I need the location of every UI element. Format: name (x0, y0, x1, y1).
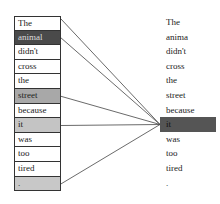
right-token: anima (164, 30, 216, 45)
right-token: . (164, 176, 216, 191)
left-token: didn't (14, 45, 61, 60)
left-token: tired (14, 162, 61, 177)
right-token: the (164, 73, 216, 88)
right-token: tired (164, 161, 216, 176)
attention-line (61, 19, 160, 125)
right-token: because (164, 103, 216, 118)
left-token: it (14, 118, 61, 133)
attention-line (61, 96, 160, 124)
left-token: animal (14, 31, 61, 46)
right-token: didn't (164, 44, 216, 59)
left-token: the (14, 74, 61, 89)
right-token: cross (164, 59, 216, 74)
left-token: street (14, 89, 61, 104)
left-token: was (14, 133, 61, 148)
attention-line (61, 125, 160, 184)
source-token-column: The animal didn't cross the street becau… (14, 16, 61, 191)
right-token: was (164, 132, 216, 147)
target-token-column: The anima didn't cross the street becaus… (164, 15, 216, 190)
right-token: street (164, 88, 216, 103)
left-token: cross (14, 60, 61, 75)
right-token: The (164, 15, 216, 30)
attention-line (61, 125, 160, 126)
left-token: The (14, 16, 61, 31)
left-token: too (14, 147, 61, 162)
right-token: it (160, 117, 216, 132)
attention-line (61, 38, 160, 125)
right-token: too (164, 146, 216, 161)
left-token: . (14, 177, 61, 192)
left-token: because (14, 104, 61, 119)
